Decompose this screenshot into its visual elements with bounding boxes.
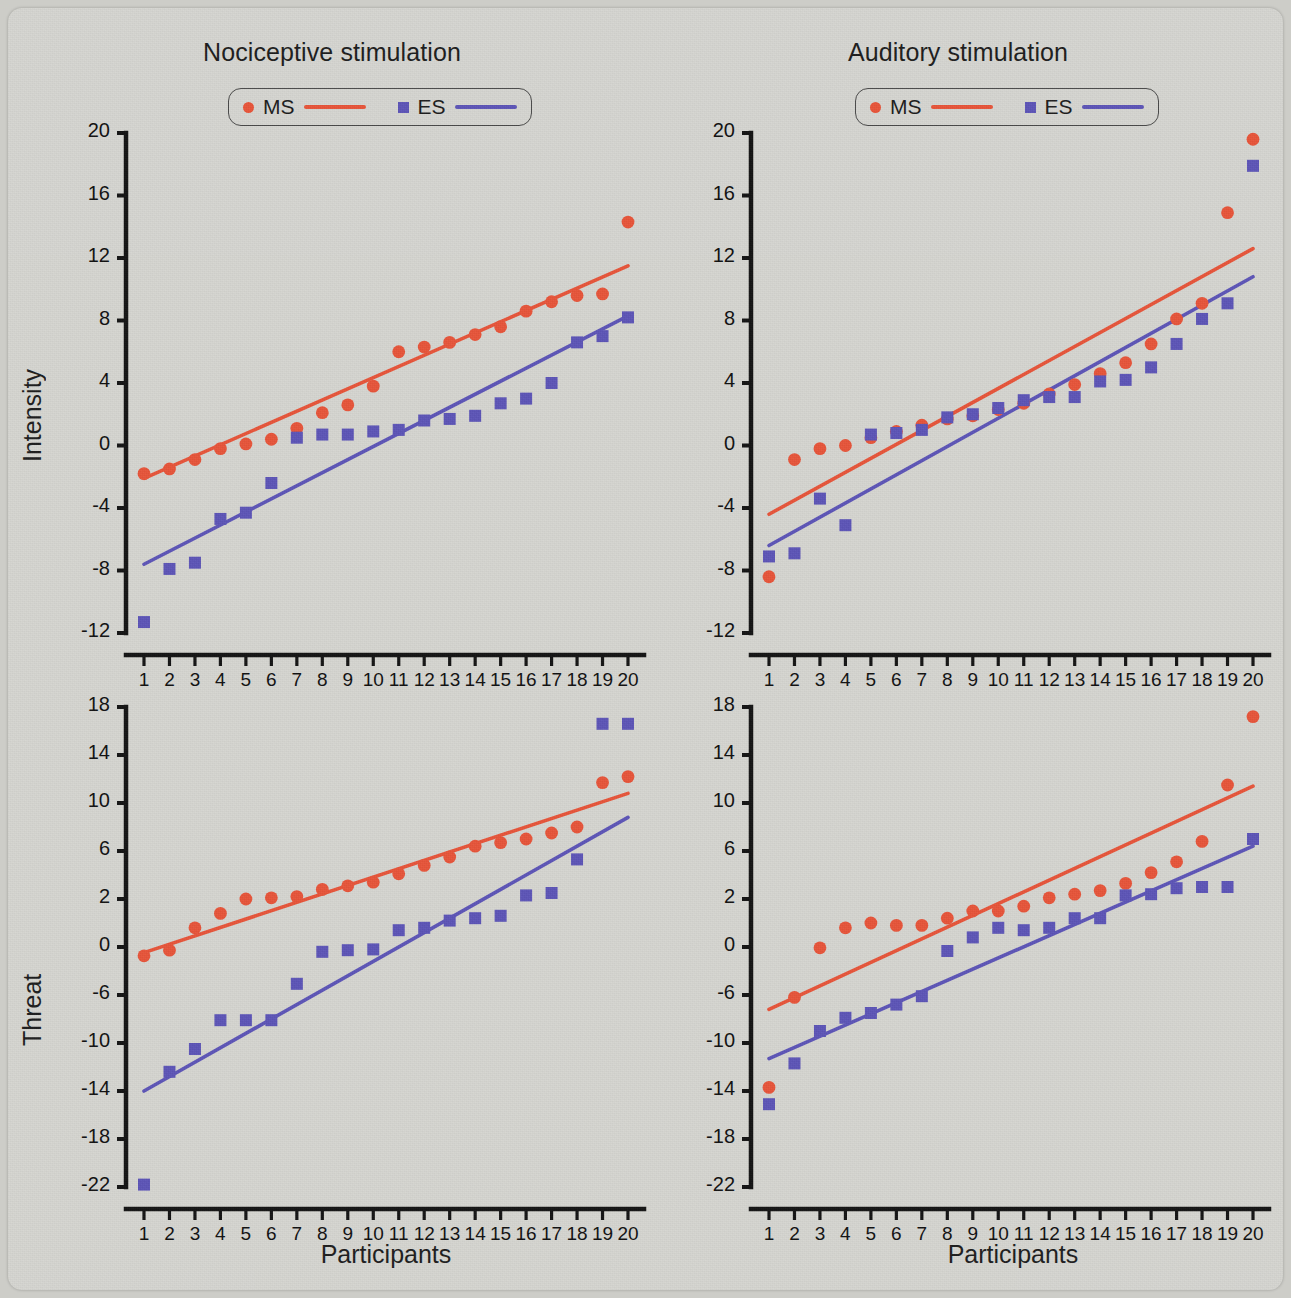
y-tick-label: -10 bbox=[673, 1029, 735, 1052]
y-tick-label: 2 bbox=[48, 885, 110, 908]
panel-auditory-threat: Participants 181410620-6-10-14-18-221234… bbox=[633, 680, 1283, 1290]
y-tick-label: 0 bbox=[48, 933, 110, 956]
y-tick-label: 8 bbox=[48, 307, 110, 330]
y-tick-label: 18 bbox=[673, 693, 735, 716]
y-tick-label: 4 bbox=[48, 369, 110, 392]
y-tick-label: -4 bbox=[48, 494, 110, 517]
y-tick-label: 6 bbox=[48, 837, 110, 860]
y-tick-label: 18 bbox=[48, 693, 110, 716]
y-tick-label: -12 bbox=[673, 619, 735, 642]
y-tick-label: -18 bbox=[673, 1125, 735, 1148]
y-tick-label: 14 bbox=[48, 741, 110, 764]
y-tick-label: -6 bbox=[48, 981, 110, 1004]
y-tick-label: -6 bbox=[673, 981, 735, 1004]
y-tick-label: 16 bbox=[673, 182, 735, 205]
y-tick-label: 14 bbox=[673, 741, 735, 764]
figure-canvas: Nociceptive stimulation MS ES Intensity … bbox=[8, 8, 1283, 1290]
y-tick-label: 16 bbox=[48, 182, 110, 205]
y-tick-label: 12 bbox=[673, 244, 735, 267]
y-tick-label: 20 bbox=[673, 119, 735, 142]
y-tick-label: 0 bbox=[48, 432, 110, 455]
y-tick-label: 4 bbox=[673, 369, 735, 392]
y-tick-label: -8 bbox=[48, 557, 110, 580]
y-tick-label: -10 bbox=[48, 1029, 110, 1052]
x-tick-label: 20 bbox=[1236, 1223, 1270, 1245]
y-tick-label: -14 bbox=[673, 1077, 735, 1100]
y-tick-label: 6 bbox=[673, 837, 735, 860]
y-tick-label: -4 bbox=[673, 494, 735, 517]
y-tick-label: -22 bbox=[48, 1173, 110, 1196]
y-tick-label: 20 bbox=[48, 119, 110, 142]
y-tick-label: -14 bbox=[48, 1077, 110, 1100]
y-tick-label: 0 bbox=[673, 933, 735, 956]
panel-nociceptive-intensity: Nociceptive stimulation MS ES Intensity … bbox=[8, 20, 656, 680]
y-tick-label: 0 bbox=[673, 432, 735, 455]
panel-auditory-intensity: Auditory stimulation MS ES 201612840-4-8… bbox=[633, 20, 1283, 680]
y-tick-label: 12 bbox=[48, 244, 110, 267]
y-tick-label: -8 bbox=[673, 557, 735, 580]
y-tick-label: -12 bbox=[48, 619, 110, 642]
y-tick-label: 2 bbox=[673, 885, 735, 908]
y-tick-label: 10 bbox=[673, 789, 735, 812]
y-tick-label: 10 bbox=[48, 789, 110, 812]
y-tick-label: -22 bbox=[673, 1173, 735, 1196]
y-tick-label: -18 bbox=[48, 1125, 110, 1148]
panel-nociceptive-threat: Threat Participants 181410620-6-10-14-18… bbox=[8, 680, 656, 1290]
y-tick-label: 8 bbox=[673, 307, 735, 330]
